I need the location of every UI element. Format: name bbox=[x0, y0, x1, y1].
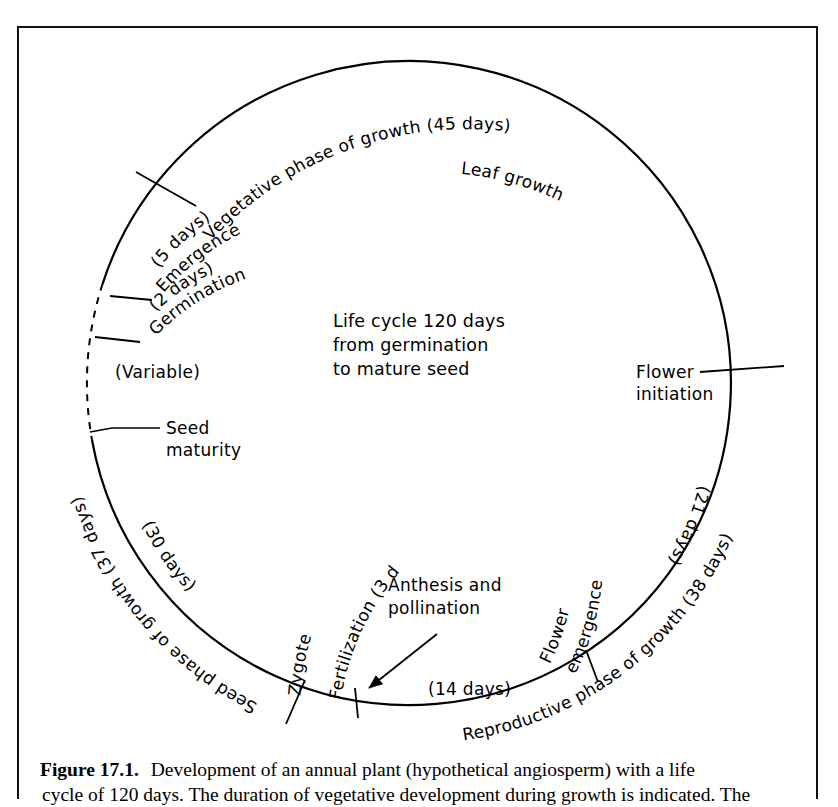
life-cycle-arc-dashed-variable bbox=[87, 284, 103, 440]
tick-germination bbox=[95, 337, 140, 342]
center-text-line2: from germination bbox=[333, 335, 489, 355]
label-variable: (Variable) bbox=[115, 362, 200, 382]
label-zygote: Zygote bbox=[284, 631, 315, 697]
tick-anthesis bbox=[355, 688, 358, 718]
leader-seed-maturity bbox=[90, 428, 160, 432]
figure-number: Figure 17.1. bbox=[40, 759, 139, 780]
caption-line-1: Development of an annual plant (hypothet… bbox=[151, 759, 695, 780]
label-seed-maturity-line2: maturity bbox=[166, 440, 241, 460]
label-flower-initiation-line1: Flower bbox=[636, 362, 694, 382]
label-anthesis-14-days: (14 days) bbox=[428, 679, 511, 699]
center-text-line1: Life cycle 120 days bbox=[333, 311, 505, 331]
label-seed-30-days: (30 days) bbox=[138, 517, 200, 595]
arc-label-reproductive: Reproductive phase of growth (38 days) bbox=[461, 530, 737, 745]
figure-caption: Figure 17.1.Development of an annual pla… bbox=[40, 757, 802, 807]
tick-emergence-leafgrowth bbox=[136, 172, 196, 206]
arc-label-seed-phase: Seed phase of growth (37 days) bbox=[66, 494, 260, 718]
label-flower-initiation-line2: initiation bbox=[636, 384, 714, 404]
label-anthesis-line1: Anthesis and bbox=[388, 575, 502, 595]
tick-flower-initiation bbox=[700, 366, 784, 372]
label-seed-maturity-line1: Seed bbox=[166, 418, 210, 438]
center-text-line3: to mature seed bbox=[333, 359, 470, 379]
caption-line-2: cycle of 120 days. The duration of veget… bbox=[40, 782, 802, 807]
anthesis-arrow bbox=[369, 634, 437, 688]
arc-label-leaf-growth: Leaf growth bbox=[460, 158, 567, 205]
arc-label-vegetative: Vegetative phase of growth (45 days) bbox=[199, 113, 512, 244]
label-anthesis-line2: pollination bbox=[388, 598, 480, 618]
